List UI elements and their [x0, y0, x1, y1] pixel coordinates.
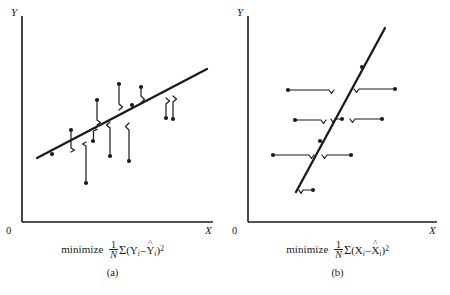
data-point: [108, 154, 112, 158]
origin-label: 0: [6, 225, 11, 236]
residual-bracket: [354, 89, 393, 93]
panel-b-label: (b): [225, 268, 450, 279]
data-point: [117, 82, 121, 86]
data-point: [130, 103, 134, 107]
residual-bracket: [83, 142, 87, 181]
data-point: [340, 117, 344, 121]
data-point: [318, 139, 322, 143]
data-point: [393, 87, 397, 91]
y-axis-label: Y: [237, 6, 245, 18]
minimize-word: minimize: [61, 243, 103, 255]
data-points: [50, 82, 175, 185]
panel-a-label: (a): [0, 268, 225, 279]
residual-bracket: [275, 155, 314, 159]
residual-bracket: [71, 132, 75, 152]
term2-hatted-variable: ^X: [371, 245, 379, 256]
summation-expression: Σ(Yi–^Yi)2: [119, 244, 164, 258]
panel-a-axes: [22, 16, 213, 222]
residual-bracket: [297, 120, 326, 124]
data-point: [69, 128, 73, 132]
regression-line: [296, 28, 385, 192]
x-axis-label: X: [428, 224, 437, 236]
hat-accent: ^: [373, 239, 377, 248]
data-point: [95, 98, 99, 102]
residual-brackets: [275, 89, 393, 194]
y-axis-label: Y: [11, 6, 19, 18]
panel-a: Y 0 X: [0, 0, 225, 295]
exponent: 2: [160, 243, 164, 252]
origin-label: 0: [232, 225, 237, 236]
term2-hatted-variable: ^Y: [146, 245, 154, 256]
summation-expression: Σ(Xi–^Xi)2: [344, 244, 389, 258]
data-point: [164, 116, 168, 120]
one-over-n-fraction: 1N: [109, 240, 118, 261]
panel-a-formula: minimize 1NΣ(Yi–^Yi)2: [0, 240, 225, 261]
residual-bracket: [107, 122, 111, 154]
regression-line: [37, 69, 207, 158]
residual-bracket: [299, 190, 311, 194]
x-axis-label: X: [204, 224, 213, 236]
residual-bracket: [290, 90, 334, 94]
residual-bracket: [97, 102, 101, 125]
panel-b: Y 0 X: [225, 0, 450, 295]
fraction-denominator: N: [109, 250, 118, 261]
residual-brackets: [71, 86, 177, 181]
minimize-word: minimize: [286, 243, 328, 255]
data-point: [271, 153, 275, 157]
data-point: [127, 159, 131, 163]
residual-bracket: [173, 96, 177, 117]
residual-bracket: [126, 123, 130, 159]
data-point: [311, 188, 315, 192]
data-point: [171, 117, 175, 121]
data-point: [139, 85, 143, 89]
data-point: [360, 65, 364, 69]
residual-bracket: [94, 128, 98, 139]
residual-bracket: [322, 155, 349, 159]
panel-b-formula: minimize 1NΣ(Xi–^Xi)2: [225, 240, 450, 261]
data-point: [286, 88, 290, 92]
data-point: [50, 152, 54, 156]
data-point: [349, 153, 353, 157]
figure-root: Y 0 X: [0, 0, 450, 295]
term1-variable: Y: [130, 244, 138, 256]
residual-bracket: [166, 98, 170, 116]
fraction-denominator: N: [334, 250, 343, 261]
data-point: [91, 139, 95, 143]
residual-bracket: [350, 119, 380, 123]
data-point: [293, 118, 297, 122]
residual-bracket: [119, 86, 123, 110]
data-point: [84, 181, 88, 185]
data-points: [271, 65, 397, 192]
hat-accent: ^: [148, 239, 152, 248]
exponent: 2: [385, 243, 389, 252]
data-point: [380, 117, 384, 121]
term1-variable: X: [355, 244, 363, 256]
one-over-n-fraction: 1N: [334, 240, 343, 261]
